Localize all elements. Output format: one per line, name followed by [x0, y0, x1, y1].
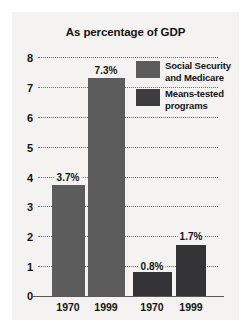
- bar-value-social-security-1999: 7.3%: [93, 65, 120, 76]
- bar-means-tested-1970[interactable]: [133, 272, 172, 296]
- legend-swatch-icon-means-tested: [136, 89, 160, 106]
- legend-label-social-security-line1: Social Security: [165, 60, 231, 71]
- chart-legend: Social Security and Medicare Means-teste…: [136, 60, 236, 116]
- x-tick-label-1: 1999: [94, 301, 117, 313]
- legend-label-means-tested-line1: Means-tested: [165, 88, 224, 99]
- y-axis-label-5: 5: [27, 142, 33, 153]
- y-axis-label-6: 6: [27, 112, 33, 123]
- chart-title: As percentage of GDP: [0, 26, 251, 38]
- legend-item-social-security[interactable]: Social Security and Medicare: [136, 60, 236, 83]
- chart-figure: As percentage of GDP 8 7 6 5 4 3 2 1 0: [0, 0, 251, 330]
- x-tick-label-2: 1970: [140, 301, 163, 313]
- legend-label-means-tested-line2: programs: [165, 100, 208, 111]
- bar-social-security-1970[interactable]: [52, 185, 85, 296]
- legend-label-social-security: Social Security and Medicare: [165, 60, 231, 83]
- gridline-5: 5: [38, 147, 218, 148]
- bar-social-security-1999[interactable]: [88, 78, 125, 296]
- gridline-6: 6: [38, 117, 218, 118]
- legend-label-social-security-line2: and Medicare: [165, 72, 224, 83]
- bar-value-means-tested-1970: 0.8%: [139, 261, 166, 272]
- legend-item-means-tested[interactable]: Means-tested programs: [136, 88, 236, 111]
- x-tick-label-0: 1970: [56, 301, 79, 313]
- x-axis-line: [32, 296, 224, 297]
- legend-label-means-tested: Means-tested programs: [165, 88, 224, 111]
- bar-value-social-security-1970: 3.7%: [55, 171, 82, 182]
- y-axis-label-2: 2: [27, 232, 33, 243]
- bar-value-means-tested-1999: 1.7%: [178, 231, 205, 242]
- y-axis-label-4: 4: [27, 172, 33, 183]
- bar-means-tested-1999[interactable]: [176, 245, 206, 296]
- y-axis-label-7: 7: [27, 82, 33, 93]
- y-axis-label-3: 3: [27, 202, 33, 213]
- legend-swatch-icon-social-security: [136, 61, 160, 78]
- x-tick-label-3: 1999: [179, 301, 202, 313]
- y-axis-label-1: 1: [27, 262, 33, 273]
- gridline-8: 8: [38, 57, 218, 58]
- y-axis-label-8: 8: [27, 53, 33, 64]
